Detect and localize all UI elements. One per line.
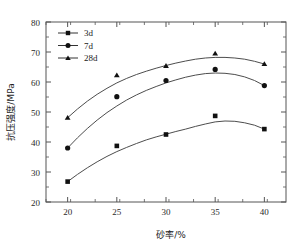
legend-label-7d: 7d: [84, 41, 94, 51]
data-point-28d-25: [114, 72, 120, 77]
data-point-7d-25: [114, 94, 119, 99]
data-point-3d-25: [115, 144, 120, 149]
data-point-7d-20: [65, 145, 70, 150]
x-tick-label: 30: [162, 207, 172, 217]
data-point-28d-35: [212, 51, 218, 56]
y-tick-label: 40: [31, 138, 41, 148]
data-point-3d-30: [164, 132, 169, 137]
data-point-7d-35: [213, 67, 218, 72]
x-axis-title: 砂率/%: [156, 229, 186, 240]
data-point-7d-30: [163, 78, 168, 83]
y-tick-label: 60: [31, 78, 41, 88]
legend-marker-3d: [66, 31, 70, 35]
x-tick-label: 40: [260, 207, 270, 217]
y-tick-label: 20: [31, 198, 41, 208]
markers-layer: [65, 51, 267, 184]
data-point-3d-40: [262, 127, 267, 132]
series-curve-3d: [68, 121, 265, 182]
data-point-7d-40: [262, 83, 267, 88]
x-tick-label: 20: [63, 207, 73, 217]
data-point-3d-35: [213, 114, 218, 119]
legend-label-3d: 3d: [84, 28, 94, 38]
curves-layer: [68, 57, 265, 181]
y-axis-title: 抗压强度/MPa: [5, 83, 16, 140]
x-tick-label: 35: [211, 207, 221, 217]
y-tick-label: 30: [31, 168, 41, 178]
chart-legend: 3d7d28d: [58, 28, 98, 63]
plot-frame: [46, 22, 286, 202]
legend-marker-7d: [66, 43, 71, 48]
y-tick-label: 70: [31, 48, 41, 58]
compressive-strength-line-chart: 202530354020304050607080 3d7d28d 砂率/% 抗压…: [0, 0, 302, 243]
y-tick-label: 80: [31, 18, 41, 28]
x-tick-label: 25: [112, 207, 122, 217]
axes-layer: [46, 22, 286, 202]
data-point-3d-20: [65, 179, 70, 184]
legend-label-28d: 28d: [84, 53, 98, 63]
chart-figure: 202530354020304050607080 3d7d28d 砂率/% 抗压…: [0, 0, 302, 243]
y-tick-label: 50: [31, 108, 41, 118]
